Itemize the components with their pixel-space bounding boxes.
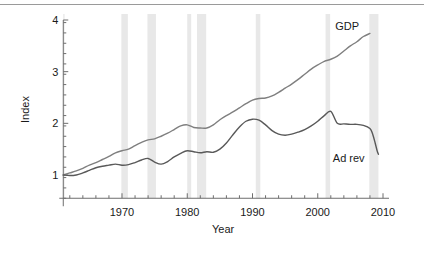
y-tick-label-1: 1 — [52, 170, 58, 181]
chart-plot-area — [0, 0, 424, 261]
x-tick-label-2010: 2010 — [371, 207, 395, 218]
chart-figure: 4 3 2 1 1970 1980 1990 2000 2010 Index Y… — [0, 0, 424, 261]
x-tick-label-1990: 1990 — [240, 207, 264, 218]
recession-band — [326, 14, 331, 198]
recession-band — [197, 14, 206, 198]
axes-group — [59, 20, 389, 206]
recession-band — [256, 14, 261, 198]
series-line-gdp — [63, 33, 370, 175]
y-tick-label-4: 4 — [52, 15, 58, 26]
x-tick-label-2000: 2000 — [306, 207, 330, 218]
recession-band — [147, 14, 155, 198]
recession-bands-group — [63, 14, 378, 198]
recession-band — [121, 14, 128, 198]
x-axis-title: Year — [212, 224, 234, 235]
y-tick-label-3: 3 — [52, 67, 58, 78]
x-tick-label-1980: 1980 — [175, 207, 199, 218]
series-lines-group — [63, 33, 378, 175]
series-line-ad-rev — [63, 111, 378, 175]
y-axis-title: Index — [20, 96, 31, 123]
x-tick-label-1970: 1970 — [110, 207, 134, 218]
recession-band — [369, 14, 378, 198]
y-tick-label-2: 2 — [52, 118, 58, 129]
series-label-ad-rev: Ad rev — [333, 153, 365, 164]
recession-band — [187, 14, 191, 198]
series-label-gdp: GDP — [335, 21, 359, 32]
